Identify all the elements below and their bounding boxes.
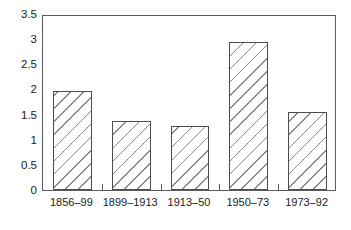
bar-slot xyxy=(278,16,337,190)
plot-area xyxy=(42,15,336,191)
bar xyxy=(53,91,92,190)
bar-slot xyxy=(161,16,220,190)
y-axis-tick-label: 3 xyxy=(0,34,42,46)
x-axis-category-label: 1950–73 xyxy=(218,196,277,208)
bar-chart: 00.511.522.533.5 1856–991899–19131913–50… xyxy=(0,0,351,230)
bar xyxy=(112,121,151,190)
y-axis-tick-label: 1 xyxy=(0,135,42,147)
y-axis-tick-label: 0 xyxy=(0,185,42,197)
bar-slot xyxy=(43,16,102,190)
bar-slot xyxy=(102,16,161,190)
x-axis-category-label: 1973–92 xyxy=(277,196,336,208)
bar xyxy=(229,42,268,190)
y-axis-tick-label: 2.5 xyxy=(0,60,42,72)
bar xyxy=(171,126,210,190)
y-axis-tick-label: 1.5 xyxy=(0,110,42,122)
y-axis-tick-label: 3.5 xyxy=(0,9,42,21)
plot-inner xyxy=(43,16,335,190)
x-axis-tick xyxy=(278,184,279,190)
bar xyxy=(288,112,327,190)
x-axis-category-label: 1913–50 xyxy=(160,196,219,208)
y-axis-tick-label: 2 xyxy=(0,85,42,97)
y-axis-tick-label: 0.5 xyxy=(0,160,42,172)
x-axis-category-label: 1899–1913 xyxy=(101,196,160,208)
bar-slot xyxy=(219,16,278,190)
x-axis-tick xyxy=(219,184,220,190)
x-axis-tick xyxy=(161,184,162,190)
x-axis-category-label: 1856–99 xyxy=(42,196,101,208)
x-axis-tick xyxy=(102,184,103,190)
